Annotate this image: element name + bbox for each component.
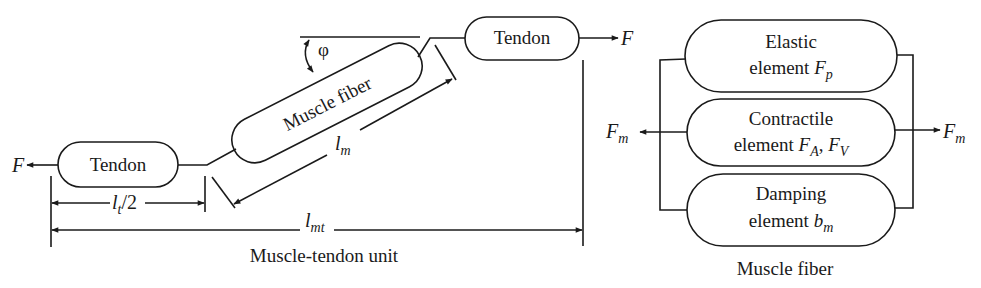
muscle-tendon-unit-caption: Muscle-tendon unit xyxy=(250,245,399,266)
tendon-left-label: Tendon xyxy=(90,154,147,175)
contractile-element-title: Contractile xyxy=(749,108,833,129)
muscle-tendon-diagram: F Tendon Muscle fiber Tendon F φ lm lt/2… xyxy=(0,0,981,288)
lm-label: lm xyxy=(335,132,351,158)
frame-right xyxy=(895,55,913,208)
connector-right xyxy=(418,38,465,57)
connector-left xyxy=(178,149,236,165)
tendon-right-label: Tendon xyxy=(494,27,551,48)
elastic-element-title: Elastic xyxy=(765,31,817,52)
force-fm-left-label: Fm xyxy=(605,120,628,146)
frame-left xyxy=(660,59,687,210)
damping-element-title: Damping xyxy=(756,183,827,204)
lt-half-label: lt/2 xyxy=(112,191,137,217)
muscle-fiber-label: Muscle fiber xyxy=(279,72,375,135)
damping-element-subtitle: element bm xyxy=(749,210,834,235)
force-left-label: F xyxy=(11,154,25,176)
lmt-label: lmt xyxy=(305,209,326,235)
pennation-angle-arc xyxy=(305,40,313,72)
force-right-label: F xyxy=(620,27,634,49)
muscle-fiber-caption: Muscle fiber xyxy=(737,258,834,279)
lm-extension-start xyxy=(212,177,235,208)
elastic-element-subtitle: element Fp xyxy=(749,57,833,82)
contractile-element-subtitle: element FA, FV xyxy=(734,134,850,159)
force-fm-right-label: Fm xyxy=(942,120,965,146)
pennation-angle-label: φ xyxy=(318,39,329,60)
lm-extension-end xyxy=(435,45,456,80)
